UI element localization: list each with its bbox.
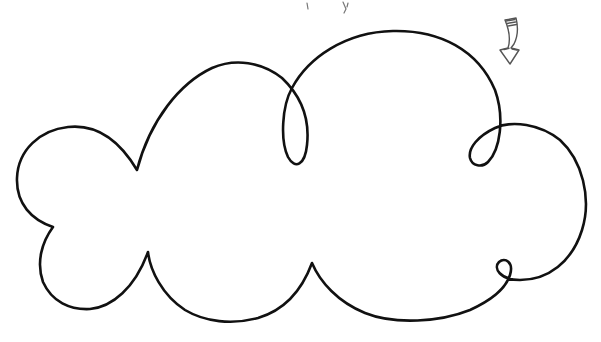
cloud-outline: [17, 31, 586, 322]
cloud-drawing: [0, 0, 601, 342]
illustration-canvas: Cloud outline drawing with a small downw…: [0, 0, 601, 342]
top-marks: [307, 2, 348, 13]
arrow-icon: [500, 18, 519, 64]
